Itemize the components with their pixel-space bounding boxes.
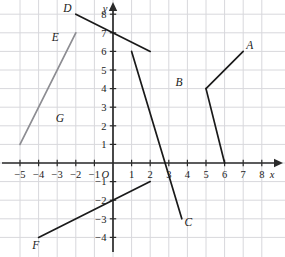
x-tick-label: 1 <box>129 169 134 180</box>
segment-label-d: D <box>62 2 72 14</box>
x-tick-label: 2 <box>148 169 153 180</box>
annotation-g: G <box>56 112 65 124</box>
axes <box>2 2 283 252</box>
segment-label-f: F <box>31 239 40 251</box>
y-tick-label: −4 <box>95 232 107 243</box>
axis-names: xy <box>102 3 275 180</box>
y-tick-label: 5 <box>101 65 106 76</box>
x-tick-label: −3 <box>52 169 63 180</box>
y-tick-label: 4 <box>101 83 107 94</box>
x-tick-label: 8 <box>259 169 264 180</box>
y-axis-arrowhead <box>109 2 117 11</box>
region-annotations: G <box>56 112 65 124</box>
x-tick-label: 5 <box>203 169 208 180</box>
y-tick-label: −3 <box>95 214 106 225</box>
x-tick-label: 4 <box>185 169 191 180</box>
x-tick-label: 7 <box>241 169 246 180</box>
x-axis-label: x <box>269 169 275 180</box>
line-segment-c <box>132 51 182 218</box>
grid-lines <box>0 0 285 257</box>
coordinate-plane-figure: −5−4−3−2−112345678−4−3−2−112345678O ABCD… <box>0 0 285 257</box>
segment-label-e: E <box>51 31 59 43</box>
x-tick-label: −4 <box>33 169 45 180</box>
y-tick-label: 1 <box>101 139 106 150</box>
origin-label: O <box>101 169 109 180</box>
y-tick-label: 3 <box>101 102 106 113</box>
y-tick-label: 2 <box>101 121 106 132</box>
segment-label-c: C <box>184 216 192 228</box>
x-tick-label: −5 <box>14 169 25 180</box>
coordinate-plane-svg: −5−4−3−2−112345678−4−3−2−112345678O ABCD… <box>0 0 285 257</box>
segment-label-a: A <box>245 39 254 51</box>
x-axis-arrowhead <box>274 159 283 167</box>
x-tick-label: −2 <box>70 169 81 180</box>
y-axis-label: y <box>102 3 108 14</box>
y-tick-label: 6 <box>101 46 106 57</box>
segment-label-b: B <box>176 76 183 88</box>
x-tick-label: 6 <box>222 169 227 180</box>
